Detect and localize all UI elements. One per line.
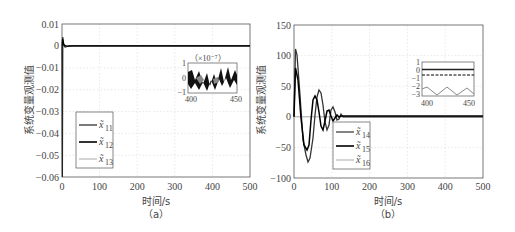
chart-a-yticks: 0.01 0 −0.01 −0.02 −0.03 −0.04 −0.05 −0.… bbox=[36, 19, 59, 183]
svg-text:14: 14 bbox=[362, 131, 370, 140]
svg-text:11: 11 bbox=[105, 124, 113, 133]
svg-text:−100: −100 bbox=[270, 173, 291, 184]
chart-b-inset: 1 0 −1 −2 −3 400 450 bbox=[411, 58, 475, 108]
svg-text:−50: −50 bbox=[275, 142, 291, 153]
chart-b-ylabel: 系统变量观测值 bbox=[255, 65, 267, 135]
svg-text:150: 150 bbox=[276, 20, 291, 31]
svg-text:200: 200 bbox=[130, 181, 145, 192]
svg-text:400: 400 bbox=[205, 181, 220, 192]
svg-text:13: 13 bbox=[105, 158, 113, 167]
svg-text:12: 12 bbox=[105, 141, 113, 150]
figure: 0.01 0 −0.01 −0.02 −0.03 −0.04 −0.05 −0.… bbox=[0, 0, 515, 232]
svg-text:1: 1 bbox=[182, 59, 186, 68]
svg-text:100: 100 bbox=[92, 181, 107, 192]
chart-b-legend: x̃ 14 x̃ 15 x̃ 16 bbox=[333, 122, 370, 169]
legend-x14: x̃ bbox=[355, 126, 361, 137]
svg-text:−0.05: −0.05 bbox=[36, 150, 59, 161]
legend-x16: x̃ bbox=[355, 154, 361, 165]
legend-x11: x̃ bbox=[98, 119, 104, 130]
svg-text:15: 15 bbox=[362, 145, 370, 154]
svg-text:300: 300 bbox=[167, 181, 182, 192]
chart-a-legend: x̃ 11 x̃ 12 x̃ 13 bbox=[76, 112, 113, 168]
svg-text:200: 200 bbox=[362, 181, 377, 192]
svg-text:300: 300 bbox=[400, 181, 415, 192]
chart-a-xlabel: 时间/s bbox=[142, 195, 171, 207]
chart-b-yticks: 150 100 50 0 −50 −100 bbox=[270, 20, 291, 184]
svg-text:0: 0 bbox=[292, 181, 297, 192]
chart-a-ylabel: 系统变量观测值 bbox=[23, 65, 35, 135]
legend-x12: x̃ bbox=[98, 136, 104, 147]
chart-a-inset: （×10⁻⁷） 1 0 −1 400 450 bbox=[177, 54, 242, 104]
legend-x15: x̃ bbox=[355, 140, 361, 151]
chart-b-xlabel: 时间/s bbox=[374, 195, 403, 207]
chart-a-series-x12 bbox=[62, 39, 250, 46]
chart-a-panel-label: （a） bbox=[143, 209, 169, 220]
svg-text:0: 0 bbox=[182, 74, 186, 83]
svg-text:400: 400 bbox=[438, 181, 453, 192]
svg-text:−0.06: −0.06 bbox=[36, 172, 59, 183]
svg-text:100: 100 bbox=[276, 50, 291, 61]
svg-text:500: 500 bbox=[476, 181, 491, 192]
svg-text:450: 450 bbox=[463, 99, 475, 108]
svg-text:0: 0 bbox=[54, 40, 59, 51]
svg-text:50: 50 bbox=[281, 81, 291, 92]
svg-text:0: 0 bbox=[286, 111, 291, 122]
svg-text:0: 0 bbox=[60, 181, 65, 192]
svg-text:0.01: 0.01 bbox=[42, 19, 60, 30]
chart-a-inset-scale: （×10⁻⁷） bbox=[190, 54, 226, 63]
svg-text:500: 500 bbox=[243, 181, 258, 192]
svg-text:−0.03: −0.03 bbox=[36, 106, 59, 117]
svg-text:450: 450 bbox=[230, 95, 242, 104]
svg-text:−0.02: −0.02 bbox=[36, 84, 59, 95]
chart-b-xticks: 0 100 200 300 400 500 bbox=[292, 181, 491, 192]
svg-text:16: 16 bbox=[362, 159, 370, 168]
chart-a-xticks: 0 100 200 300 400 500 bbox=[60, 181, 258, 192]
svg-text:−0.04: −0.04 bbox=[36, 128, 59, 139]
svg-text:400: 400 bbox=[421, 99, 433, 108]
svg-text:400: 400 bbox=[185, 95, 197, 104]
chart-b: 150 100 50 0 −50 −100 0 100 200 300 400 … bbox=[255, 20, 491, 221]
chart-b-panel-label: （b） bbox=[375, 209, 401, 220]
legend-x13: x̃ bbox=[98, 153, 104, 164]
svg-text:100: 100 bbox=[324, 181, 339, 192]
svg-text:−3: −3 bbox=[411, 90, 420, 99]
chart-a: 0.01 0 −0.01 −0.02 −0.03 −0.04 −0.05 −0.… bbox=[23, 19, 258, 221]
svg-text:−0.01: −0.01 bbox=[36, 62, 59, 73]
